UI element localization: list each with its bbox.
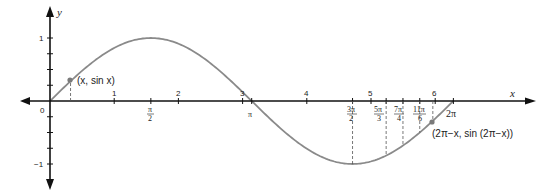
tick-label-pi-over-2: π 2 [147,105,154,123]
svg-text:5π: 5π [374,105,382,114]
tick-label-3pi-over-2: 3π 2 [347,105,357,123]
svg-text:3: 3 [377,114,381,123]
x-axis-left-arrow-icon [20,97,30,105]
svg-text:2: 2 [148,114,152,123]
x-tick-label-3: 3 [240,89,245,98]
svg-text:11π: 11π [413,105,425,114]
tick-label-11pi-over-6: 11π 6 [413,105,426,123]
y-axis-label: y [56,6,62,18]
point-x-sinx [67,77,72,82]
x-tick-label-4: 4 [304,89,309,98]
y-tick-label-neg1: −1 [34,160,44,169]
svg-text:π: π [148,105,152,114]
x-axis-label: x [509,87,515,99]
tick-label-5pi-over-3: 5π 3 [374,105,384,123]
point-label-x-sinx: (x, sin x) [77,75,115,86]
point-2pi-minus-x [429,119,434,124]
x-tick-label-1: 1 [112,89,117,98]
svg-text:2: 2 [349,114,353,123]
svg-text:7π: 7π [394,105,402,114]
x-tick-label-5: 5 [368,89,373,98]
tick-label-pi: π [248,110,252,119]
x-tick-label-6: 6 [432,89,437,98]
y-axis-up-arrow-icon [46,6,54,17]
origin-label: 0 [40,106,45,115]
point-label-2pi-minus-x: (2π−x, sin (2π−x)) [432,128,513,139]
x-axis-right-arrow-icon [525,98,536,105]
svg-text:6: 6 [418,114,422,123]
y-tick-label-1: 1 [39,34,44,43]
x-tick-label-2: 2 [176,89,181,98]
svg-text:3π: 3π [347,105,355,114]
tick-label-7pi-over-4: 7π 4 [394,105,404,123]
sine-diagram: y x 0 1 −1 1 2 3 4 5 6 π 2 π 3π 2 5π 3 7… [0,0,538,193]
y-axis-down-arrow-icon [46,179,54,190]
tick-label-2pi: 2π [446,108,456,119]
svg-text:4: 4 [397,114,401,123]
